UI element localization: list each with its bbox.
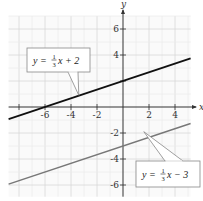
x-tick-label: -2 — [93, 110, 102, 120]
x-tick-label: -4 — [67, 110, 76, 120]
y-tick-label: 6 — [113, 24, 119, 34]
y-tick-label: -6 — [110, 180, 119, 190]
y-tick-label: -2 — [110, 128, 119, 138]
fraction-denominator: 3 — [161, 175, 164, 182]
fraction-denominator: 3 — [52, 61, 55, 68]
y-tick-label: 4 — [113, 50, 119, 60]
equation-suffix: x + 2 — [57, 55, 79, 66]
equation-suffix: x − 3 — [166, 169, 188, 180]
y-axis-arrow — [121, 9, 125, 14]
equation-prefix: y = — [32, 55, 47, 66]
x-tick-label: 4 — [172, 110, 178, 120]
y-axis-label: y — [120, 0, 127, 9]
x-axis-arrow — [192, 105, 197, 109]
x-tick-label: 2 — [146, 110, 152, 120]
x-tick-label: -6 — [41, 110, 50, 120]
y-tick-label: -4 — [110, 154, 119, 164]
fraction-numerator: 1 — [52, 53, 55, 60]
fraction-numerator: 1 — [161, 167, 164, 174]
x-axis-label: x — [199, 102, 203, 112]
line-chart: xy-6-4-22464-2-4-6 y = 13x + 2y = 13x − … — [0, 0, 203, 201]
equation-prefix: y = — [141, 169, 156, 180]
